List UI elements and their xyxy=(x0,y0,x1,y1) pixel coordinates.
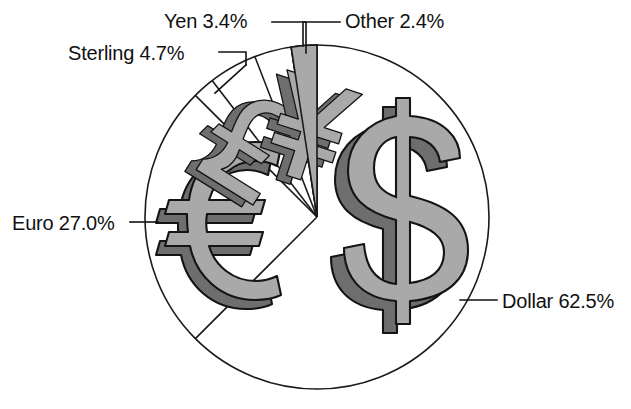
leader-line-other xyxy=(303,22,340,46)
pie-chart-canvas: Yen 3.4% Other 2.4% Sterling 4.7% Euro 2… xyxy=(0,0,631,409)
label-sterling: Sterling 4.7% xyxy=(68,42,185,64)
pie-chart-figure: Yen 3.4% Other 2.4% Sterling 4.7% Euro 2… xyxy=(0,0,631,409)
label-other: Other 2.4% xyxy=(345,10,445,32)
label-yen: Yen 3.4% xyxy=(164,10,248,32)
label-dollar: Dollar 62.5% xyxy=(502,290,615,312)
label-euro: Euro 27.0% xyxy=(12,212,115,234)
